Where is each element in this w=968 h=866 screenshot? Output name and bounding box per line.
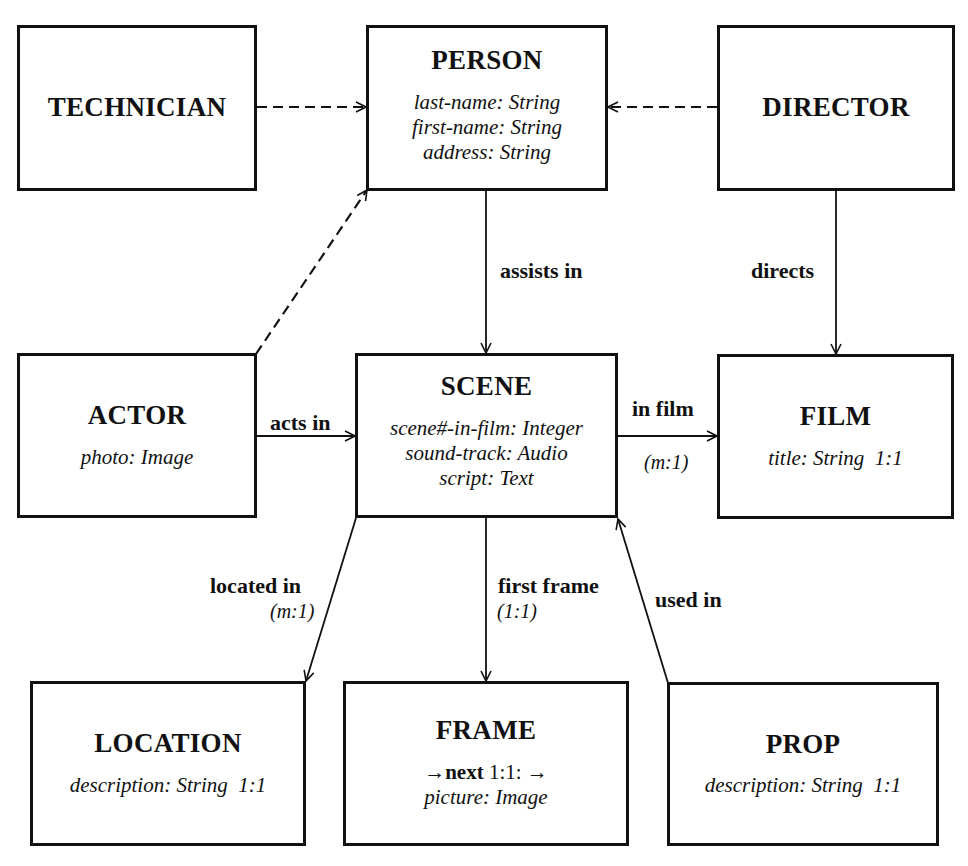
er-diagram: TECHNICIAN PERSON last-name: String firs… [0,0,968,866]
entity-director: DIRECTOR [717,25,955,191]
actor-to-person-dashed-arrow [256,190,367,354]
attribute-list: last-name: String first-name: String add… [412,90,562,166]
label-in-film: in film [632,398,694,420]
attribute-title: title: String 1:1 [768,446,903,471]
entity-name: FILM [800,402,872,432]
attribute-list: photo: Image [81,445,194,470]
attribute-first-name: first-name: String [412,115,562,140]
entity-name: DIRECTOR [762,93,909,123]
attribute-script: script: Text [390,466,583,491]
label-first-frame: first frame [498,575,599,597]
label-acts-in: acts in [270,412,331,434]
entity-prop: PROP description: String 1:1 [667,682,939,846]
cardinality-in-film: (m:1) [644,452,688,472]
entity-frame: FRAME →next 1:1: → picture: Image [343,681,629,846]
entity-name: ACTOR [88,401,187,431]
attribute-scene-number: scene#-in-film: Integer [390,416,583,441]
attribute-address: address: String [412,140,562,165]
entity-name: SCENE [441,372,533,402]
label-used-in: used in [655,589,722,611]
entity-name: TECHNICIAN [48,93,227,123]
attribute-description: description: String 1:1 [70,773,267,798]
attribute-list: scene#-in-film: Integer sound-track: Aud… [390,416,583,492]
entity-location: LOCATION description: String 1:1 [30,681,306,846]
entity-film: FILM title: String 1:1 [717,354,954,519]
attribute-description: description: String 1:1 [705,773,902,798]
attribute-photo: photo: Image [81,445,194,470]
entity-technician: TECHNICIAN [17,25,257,191]
self-arrow-icon: → [424,760,445,784]
attribute-list: description: String 1:1 [70,773,267,798]
entity-scene: SCENE scene#-in-film: Integer sound-trac… [355,353,618,518]
label-assists-in: assists in [500,260,583,282]
attribute-sound-track: sound-track: Audio [390,441,583,466]
label-located-in: located in [210,575,301,597]
cardinality-first-frame: (1:1) [497,601,537,621]
entity-person: PERSON last-name: String first-name: Str… [366,25,608,191]
attribute-list: title: String 1:1 [768,446,903,471]
attribute-picture: picture: Image [424,785,548,810]
entity-actor: ACTOR photo: Image [17,353,257,518]
label-directs: directs [751,260,814,282]
attribute-list: description: String 1:1 [705,773,902,798]
entity-name: PERSON [431,46,542,76]
attribute-list: →next 1:1: → picture: Image [424,760,548,810]
attribute-next: →next 1:1: → [424,760,548,785]
attribute-last-name: last-name: String [412,90,562,115]
entity-name: FRAME [436,716,536,746]
next-cardinality: 1:1: → [484,760,548,784]
entity-name: PROP [766,730,841,760]
cardinality-located-in: (m:1) [270,601,314,621]
next-label: next [445,760,484,784]
entity-name: LOCATION [94,729,241,759]
